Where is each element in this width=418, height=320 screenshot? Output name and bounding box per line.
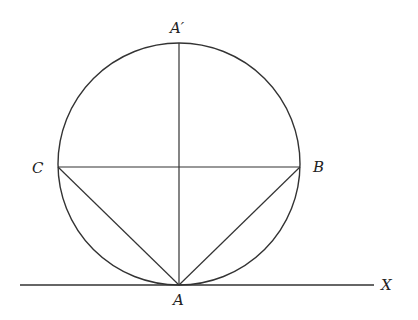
chord-AB xyxy=(179,167,300,285)
geometry-figure xyxy=(0,0,418,320)
chord-AC xyxy=(58,167,179,285)
label-c: C xyxy=(32,161,43,176)
label-x: X xyxy=(381,278,392,293)
label-a-prime: A′ xyxy=(170,21,184,36)
label-a: A xyxy=(173,293,184,308)
label-b: B xyxy=(313,160,324,175)
